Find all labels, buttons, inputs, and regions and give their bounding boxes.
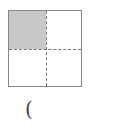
horizontal-dashed-divider (9, 49, 81, 50)
divided-square (8, 10, 82, 87)
shaded-quadrant (9, 11, 46, 49)
answer-parenthesis: ( (25, 98, 33, 120)
